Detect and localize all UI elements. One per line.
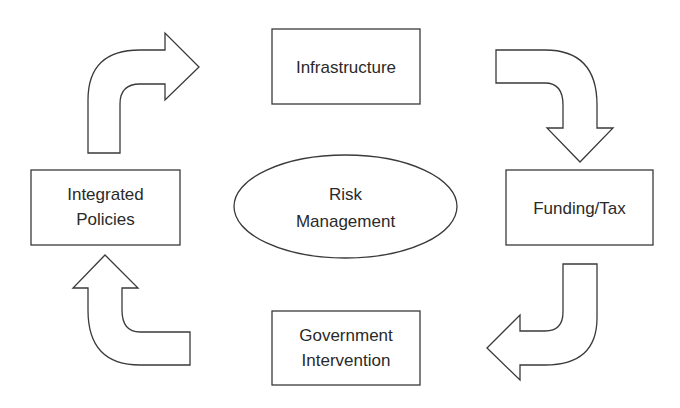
arrow-funding-to-government bbox=[487, 264, 597, 380]
risk-management-cycle-diagram: Infrastructure Funding/Tax Government In… bbox=[0, 0, 680, 408]
node-integrated-policies-label-line1: Integrated bbox=[67, 185, 144, 204]
center-risk-management: Risk Management bbox=[234, 155, 457, 258]
arrow-infrastructure-to-funding bbox=[496, 50, 613, 162]
node-infrastructure-label: Infrastructure bbox=[296, 58, 396, 77]
node-integrated-policies: Integrated Policies bbox=[31, 170, 180, 245]
center-label-line1: Risk bbox=[329, 185, 363, 204]
node-funding-tax-label: Funding/Tax bbox=[533, 199, 626, 218]
node-government-intervention: Government Intervention bbox=[272, 311, 420, 385]
arrow-policies-to-infrastructure bbox=[88, 33, 199, 153]
center-label-line2: Management bbox=[296, 212, 396, 231]
node-government-intervention-label-line1: Government bbox=[299, 326, 393, 345]
node-funding-tax: Funding/Tax bbox=[506, 170, 653, 245]
node-government-intervention-label-line2: Intervention bbox=[302, 351, 391, 370]
node-infrastructure: Infrastructure bbox=[272, 29, 420, 104]
node-integrated-policies-label-line2: Policies bbox=[76, 210, 135, 229]
arrow-government-to-policies bbox=[73, 255, 190, 365]
